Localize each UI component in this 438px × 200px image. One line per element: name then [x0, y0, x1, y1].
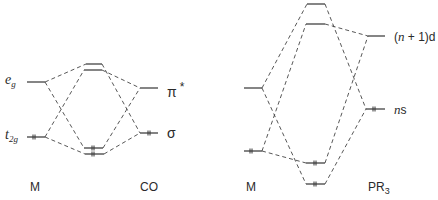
label-n-plus-1-d: (n + 1)d — [394, 30, 436, 43]
label-m-left: M — [30, 181, 40, 193]
label-eg: eg — [5, 73, 16, 89]
diagram-m-pr3 — [244, 4, 385, 187]
correlation-lines-left — [45, 64, 140, 154]
label-t2g: t2g — [5, 128, 18, 144]
label-sigma: σ — [167, 126, 176, 140]
label-m-right: M — [246, 181, 256, 193]
label-pr3: PR3 — [368, 181, 390, 196]
orbital-diagram — [0, 0, 438, 200]
correlation-lines-right — [262, 4, 368, 184]
label-ns: ns — [394, 103, 407, 116]
label-pi-star: π* — [167, 81, 184, 99]
label-co: CO — [140, 181, 158, 193]
diagram-m-co — [27, 64, 158, 157]
